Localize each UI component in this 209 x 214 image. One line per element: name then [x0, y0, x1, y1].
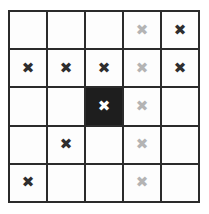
- grid-cell-r2-c0[interactable]: [10, 88, 46, 124]
- x-mark-icon: ✖: [60, 137, 73, 152]
- grid-cell-r2-c4[interactable]: [162, 88, 198, 124]
- game-board-grid: ✖✖✖✖✖✖✖✖✖✖✖✖✖: [8, 10, 200, 203]
- x-mark-icon: ✖: [174, 23, 187, 38]
- x-mark-icon: ✖: [136, 99, 149, 114]
- grid-cell-r4-c1[interactable]: [48, 165, 84, 201]
- grid-cell-r1-c3[interactable]: ✖: [124, 50, 160, 86]
- grid-cell-r0-c1[interactable]: [48, 12, 84, 48]
- grid-cell-r1-c2[interactable]: ✖: [86, 50, 122, 86]
- grid-cell-r3-c3[interactable]: ✖: [124, 127, 160, 163]
- grid-cell-r4-c4[interactable]: [162, 165, 198, 201]
- x-mark-icon: ✖: [22, 61, 35, 76]
- grid-cell-r3-c4[interactable]: [162, 127, 198, 163]
- x-mark-icon: ✖: [136, 175, 149, 190]
- grid-cell-r0-c3[interactable]: ✖: [124, 12, 160, 48]
- x-mark-icon: ✖: [136, 137, 149, 152]
- grid-cell-r3-c2[interactable]: [86, 127, 122, 163]
- grid-cell-r2-c3[interactable]: ✖: [124, 88, 160, 124]
- grid-cell-r3-c1[interactable]: ✖: [48, 127, 84, 163]
- x-mark-icon: ✖: [174, 61, 187, 76]
- grid-cell-r4-c0[interactable]: ✖: [10, 165, 46, 201]
- grid-cell-r1-c4[interactable]: ✖: [162, 50, 198, 86]
- grid-cell-r2-c1[interactable]: [48, 88, 84, 124]
- x-mark-icon: ✖: [60, 61, 73, 76]
- grid-cell-r1-c1[interactable]: ✖: [48, 50, 84, 86]
- grid-cell-r0-c4[interactable]: ✖: [162, 12, 198, 48]
- grid-cell-r0-c0[interactable]: [10, 12, 46, 48]
- grid-cell-r3-c0[interactable]: [10, 127, 46, 163]
- grid-cell-r2-c2[interactable]: ✖: [86, 88, 122, 124]
- grid-cell-r4-c3[interactable]: ✖: [124, 165, 160, 201]
- x-mark-icon: ✖: [98, 99, 111, 114]
- grid-cell-r0-c2[interactable]: [86, 12, 122, 48]
- x-mark-icon: ✖: [98, 61, 111, 76]
- grid-cell-r4-c2[interactable]: [86, 165, 122, 201]
- x-mark-icon: ✖: [136, 23, 149, 38]
- x-mark-icon: ✖: [22, 175, 35, 190]
- grid-cell-r1-c0[interactable]: ✖: [10, 50, 46, 86]
- x-mark-icon: ✖: [136, 61, 149, 76]
